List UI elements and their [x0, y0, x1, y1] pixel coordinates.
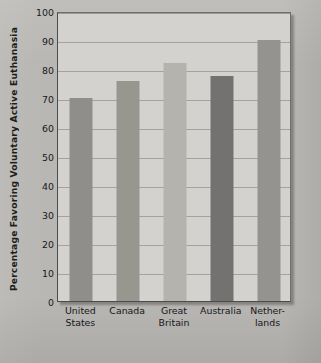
y-axis-tick-label: 50: [24, 152, 54, 163]
y-axis-tick-label: 90: [24, 36, 54, 47]
x-axis-tick-label-line2: lands: [244, 317, 291, 329]
y-axis-tick-label: 70: [24, 94, 54, 105]
y-axis-tick-label: 20: [24, 239, 54, 250]
bar[interactable]: [210, 76, 233, 301]
y-axis-tick-label: 0: [24, 297, 54, 308]
bar-slot: [245, 13, 291, 301]
x-axis-tick-label: UnitedStates: [57, 305, 104, 328]
x-axis-tick-label: GreatBritain: [151, 305, 198, 328]
bar-slot: [198, 13, 245, 301]
y-axis-tick-label: 100: [24, 7, 54, 18]
y-axis-tick-label: 10: [24, 268, 54, 279]
y-axis-tick-label: 80: [24, 65, 54, 76]
y-axis-title: Percentage Favoring Voluntary Active Eut…: [0, 0, 26, 318]
x-axis-tick-label: Nether-lands: [244, 305, 291, 328]
x-axis-tick-label-line1: Nether-: [250, 305, 285, 316]
y-axis-tick-labels: 0102030405060708090100: [24, 12, 54, 302]
x-axis-tick-label-line1: Australia: [200, 305, 241, 316]
bar[interactable]: [117, 81, 140, 301]
x-axis-tick-label-line2: States: [57, 317, 104, 329]
x-axis-tick-label: Australia: [197, 305, 244, 317]
x-axis-tick-label: Canada: [104, 305, 151, 317]
x-axis-tick-label-line1: United: [65, 305, 96, 316]
bar-slot: [152, 13, 199, 301]
x-axis-tick-label-line1: Canada: [109, 305, 145, 316]
bar[interactable]: [257, 40, 280, 301]
y-axis-tick-label: 30: [24, 210, 54, 221]
x-axis-tick-labels: UnitedStatesCanadaGreatBritainAustraliaN…: [57, 305, 291, 350]
y-axis-tick-label: 60: [24, 123, 54, 134]
bar-slot: [105, 13, 152, 301]
y-axis-tick-label: 40: [24, 181, 54, 192]
bar[interactable]: [70, 98, 93, 301]
bar-series: [58, 13, 290, 301]
x-axis-tick-label-line1: Great: [161, 305, 187, 316]
bar[interactable]: [163, 63, 186, 301]
chart-figure: Percentage Favoring Voluntary Active Eut…: [0, 0, 321, 363]
x-axis-tick-label-line2: Britain: [151, 317, 198, 329]
y-axis-title-text: Percentage Favoring Voluntary Active Eut…: [8, 27, 19, 291]
bar-slot: [58, 13, 105, 301]
plot-area: [57, 12, 291, 302]
